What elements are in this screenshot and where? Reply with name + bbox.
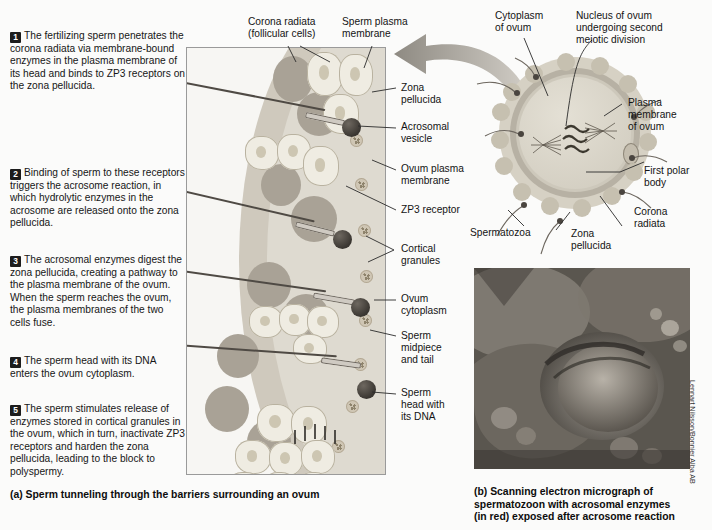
step-5-badge: 5 (10, 405, 21, 416)
label-ovum-cytoplasm: Ovum cytoplasm (401, 293, 447, 317)
photo-credit: Lennart Nilsson/Bonnier Alba AB (688, 380, 697, 490)
step-4: 4The sperm head with its DNA enters the … (10, 355, 186, 380)
step-4-badge: 4 (10, 357, 21, 368)
label-zona-pellucida-ovum: Zona pellucida (571, 228, 611, 252)
step-3: 3The acrosomal enzymes digest the zona p… (10, 254, 186, 329)
label-sperm-midpiece-and-tail: Sperm midpiece and tail (401, 330, 442, 367)
step-5-text: The sperm stimulates release of enzymes … (10, 403, 185, 477)
label-spermatozoa: Spermatozoa (470, 227, 531, 239)
label-zp3-receptor: ZP3 receptor (401, 204, 460, 216)
caption-a: (a) Sperm tunneling through the barriers… (10, 489, 319, 502)
step-1: 1The fertilizing sperm penetrates the co… (10, 30, 186, 93)
step-1-text: The fertilizing sperm penetrates the cor… (10, 30, 185, 91)
cortical-enzyme-release-icon (187, 48, 385, 474)
step-3-text: The acrosomal enzymes digest the zona pe… (10, 254, 182, 328)
label-cortical-granules: Cortical granules (401, 243, 440, 267)
step-2-badge: 2 (10, 169, 21, 180)
step-2-text: Binding of sperm to these receptors trig… (10, 167, 185, 228)
step-4-text: The sperm head with its DNA enters the o… (10, 355, 156, 379)
label-acrosomal-vesicle: Acrosomal vesicle (401, 121, 449, 145)
label-first-polar-body: First polar body (644, 165, 689, 189)
label-corona-radiata-ovum: Corona radiata (634, 206, 667, 230)
step-3-badge: 3 (10, 256, 21, 267)
step-1-badge: 1 (10, 32, 21, 43)
step-2: 2Binding of sperm to these receptors tri… (10, 167, 186, 230)
label-cytoplasm-of-ovum: Cytoplasm of ovum (495, 10, 543, 34)
label-plasma-membrane-of-ovum: Plasma membrane of ovum (628, 97, 677, 134)
step-5: 5The sperm stimulates release of enzymes… (10, 403, 186, 478)
sperm-tunneling-illustration (186, 47, 386, 475)
label-nucleus-of-ovum: Nucleus of ovum undergoing second meioti… (576, 10, 663, 47)
label-corona-radiata: Corona radiata (follicular cells) (248, 16, 315, 40)
caption-b: (b) Scanning electron micrograph of sper… (474, 486, 675, 524)
micrograph-image (474, 268, 690, 469)
label-sperm-head-with-dna: Sperm head with its DNA (401, 387, 445, 424)
sem-micrograph (474, 268, 690, 469)
